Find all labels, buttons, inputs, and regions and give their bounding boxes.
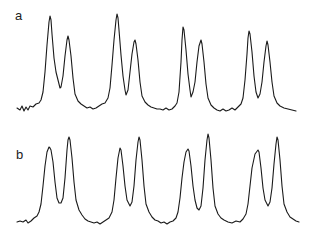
- trace-b: [17, 134, 299, 224]
- figure: a b: [0, 0, 314, 235]
- spectra-plot: [0, 0, 314, 235]
- trace-a: [17, 14, 296, 111]
